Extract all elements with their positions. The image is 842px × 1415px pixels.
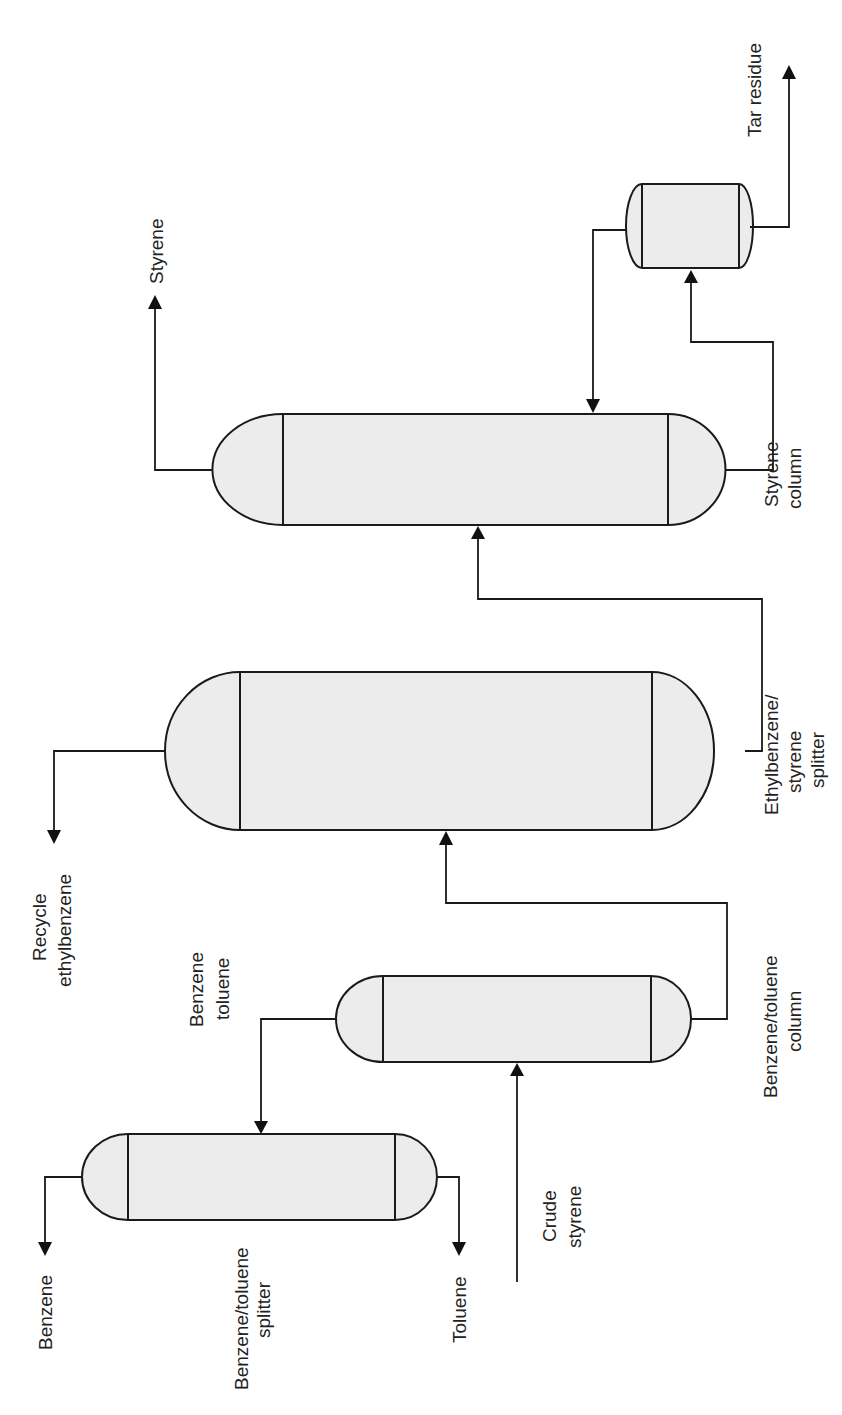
svg-text:Benzene: Benzene xyxy=(186,952,207,1027)
recycle-ethylbenzene-label: Recycle ethylbenzene xyxy=(29,874,75,987)
toluene-label: Toluene xyxy=(449,1276,470,1343)
toluene-arrow-icon xyxy=(452,1242,466,1256)
svg-text:Crude: Crude xyxy=(539,1190,560,1242)
ethylbenzene-styrene-splitter-label: Ethylbenzene/ styrene splitter xyxy=(761,694,828,815)
svg-text:splitter: splitter xyxy=(253,1281,274,1338)
styrene-column-vessel xyxy=(212,414,725,525)
benzene-label: Benzene xyxy=(35,1275,56,1350)
svg-text:styrene: styrene xyxy=(784,731,805,793)
svg-text:Benzene/toluene: Benzene/toluene xyxy=(231,1247,252,1390)
benzene-toluene-column-label: Benzene/toluene column xyxy=(760,955,805,1098)
styrene-column-return-arrow-icon xyxy=(586,399,600,413)
svg-text:ethylbenzene: ethylbenzene xyxy=(54,874,75,987)
eb-splitter-feed-arrow-icon xyxy=(439,831,453,845)
benzene-arrow-icon xyxy=(38,1242,52,1256)
svg-text:splitter: splitter xyxy=(807,731,828,788)
ethylbenzene-styrene-splitter-vessel xyxy=(165,672,714,830)
styrene-arrow-icon xyxy=(148,295,162,309)
svg-text:Recycle: Recycle xyxy=(29,893,50,961)
benzene-toluene-column-vessel xyxy=(336,976,691,1062)
benzene-toluene-stream-label: Benzene toluene xyxy=(186,952,233,1027)
styrene-product-line xyxy=(155,308,213,470)
toluene-product-line xyxy=(437,1177,459,1245)
styrene-purification-flow-diagram: Benzene Benzene/toluene splitter Toluene… xyxy=(0,0,842,1415)
benzene-toluene-overhead-line xyxy=(261,1019,336,1124)
tar-drum-feed-arrow-icon xyxy=(684,270,698,283)
tar-residue-label: Tar residue xyxy=(744,43,765,137)
benzene-toluene-splitter-label: Benzene/toluene splitter xyxy=(231,1247,274,1390)
recycle-ethylbenzene-line xyxy=(54,751,166,832)
recycle-ethylbenzene-arrow-icon xyxy=(47,830,61,844)
tar-drum-vessel xyxy=(626,184,753,268)
crude-styrene-arrow-icon xyxy=(510,1063,524,1076)
benzene-toluene-splitter-vessel xyxy=(82,1134,437,1220)
tar-drum-return-line xyxy=(593,230,626,401)
svg-text:Benzene/toluene: Benzene/toluene xyxy=(760,955,781,1098)
svg-text:toluene: toluene xyxy=(212,958,233,1020)
benzene-toluene-feed-arrow-icon xyxy=(254,1121,268,1134)
benzene-product-line xyxy=(45,1177,82,1245)
svg-text:column: column xyxy=(784,991,805,1052)
svg-text:column: column xyxy=(784,448,805,509)
svg-text:Ethylbenzene/: Ethylbenzene/ xyxy=(761,694,782,815)
crude-styrene-label: Crude styrene xyxy=(539,1186,585,1248)
tar-residue-arrow-icon xyxy=(782,65,796,79)
svg-text:Styrene: Styrene xyxy=(761,442,782,507)
svg-text:styrene: styrene xyxy=(564,1186,585,1248)
styrene-label: Styrene xyxy=(146,219,167,284)
styrene-column-feed-arrow-icon xyxy=(471,526,485,539)
styrene-column-label: Styrene column xyxy=(761,442,805,509)
